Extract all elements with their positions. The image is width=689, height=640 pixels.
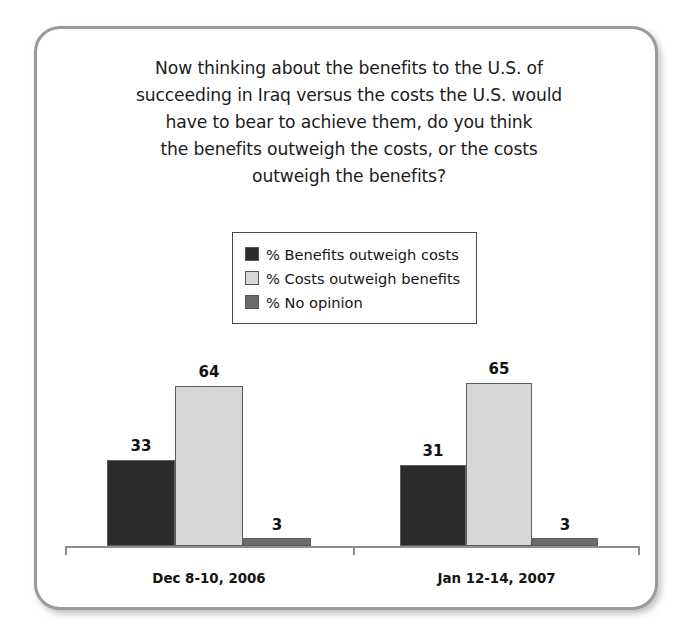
axis-tick-end bbox=[638, 546, 640, 555]
legend-swatch-icon bbox=[245, 247, 259, 261]
x-axis-line bbox=[65, 546, 640, 548]
bar-value-label: 3 bbox=[243, 516, 311, 534]
legend-swatch-icon bbox=[245, 295, 259, 309]
bar-no-opinion-2007[interactable] bbox=[532, 538, 598, 546]
legend-item-label: % No opinion bbox=[266, 294, 363, 311]
bar-value-label: 31 bbox=[400, 442, 466, 460]
bar-benefits-outweigh-costs-2007[interactable] bbox=[400, 465, 466, 546]
legend-item-benefits-outweigh-costs[interactable]: % Benefits outweigh costs bbox=[245, 242, 460, 266]
chart-question-title: Now thinking about the benefits to the U… bbox=[59, 55, 639, 190]
legend-item-no-opinion[interactable]: % No opinion bbox=[245, 290, 460, 314]
legend-item-costs-outweigh-benefits[interactable]: % Costs outweigh benefits bbox=[245, 266, 460, 290]
axis-tick-center bbox=[353, 546, 355, 555]
legend-item-label: % Benefits outweigh costs bbox=[266, 246, 459, 263]
chart-legend: % Benefits outweigh costs % Costs outwei… bbox=[232, 232, 477, 324]
bar-no-opinion-2006[interactable] bbox=[243, 538, 311, 546]
legend-item-label: % Costs outweigh benefits bbox=[266, 270, 460, 287]
bar-value-label: 64 bbox=[175, 363, 243, 381]
axis-tick-start bbox=[65, 546, 67, 555]
bar-benefits-outweigh-costs-2006[interactable] bbox=[107, 460, 175, 546]
bar-costs-outweigh-benefits-2006[interactable] bbox=[175, 386, 243, 546]
category-label-jan-2007: Jan 12-14, 2007 bbox=[353, 571, 640, 586]
bar-value-label: 33 bbox=[107, 437, 175, 455]
bar-value-label: 65 bbox=[466, 360, 532, 378]
chart-frame: Now thinking about the benefits to the U… bbox=[34, 26, 658, 610]
bar-value-label: 3 bbox=[532, 516, 598, 534]
bar-costs-outweigh-benefits-2007[interactable] bbox=[466, 383, 532, 546]
category-label-dec-2006: Dec 8-10, 2006 bbox=[65, 571, 353, 586]
legend-swatch-icon bbox=[245, 271, 259, 285]
